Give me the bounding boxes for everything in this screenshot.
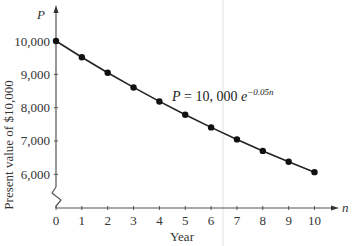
y-tick-label: 7,000 [21, 133, 50, 148]
x-axis-arrow-icon [331, 206, 339, 211]
x-tick-label: 10 [308, 213, 321, 228]
x-ticks: 012345678910 [53, 206, 321, 228]
x-tick-label: 5 [182, 213, 189, 228]
data-markers [53, 38, 318, 176]
data-point [105, 70, 111, 76]
x-axis-label: Year [170, 229, 195, 244]
y-ticks: 6,0007,0008,0009,00010,000 [14, 34, 58, 182]
x-tick-label: 6 [208, 213, 215, 228]
data-point [311, 169, 317, 175]
x-tick-label: 7 [234, 213, 241, 228]
data-point [182, 112, 188, 118]
x-tick-label: 3 [130, 213, 137, 228]
x-tick-label: 9 [285, 213, 292, 228]
y-tick-label: 6,000 [21, 167, 50, 182]
data-point [260, 148, 266, 154]
x-tick-label: 2 [104, 213, 111, 228]
y-axis-symbol: P [36, 7, 45, 22]
data-point [285, 159, 291, 165]
chart: 6,0007,0008,0009,00010,000 012345678910 … [0, 0, 355, 246]
data-point [53, 38, 59, 44]
data-point [130, 84, 136, 90]
y-tick-label: 9,000 [21, 67, 50, 82]
data-point [156, 98, 162, 104]
formula-annotation: P = 10, 000 e−0.05n [171, 87, 274, 104]
data-line [56, 41, 315, 172]
x-axis-symbol: n [342, 200, 349, 215]
x-tick-label: 4 [156, 213, 163, 228]
data-point [208, 124, 214, 130]
y-tick-label: 10,000 [14, 34, 50, 49]
data-point [79, 54, 85, 60]
x-tick-label: 8 [260, 213, 267, 228]
y-axis-label: Present value of $10,000 [1, 80, 16, 209]
data-point [234, 136, 240, 142]
y-tick-label: 8,000 [21, 100, 50, 115]
x-tick-label: 1 [79, 213, 86, 228]
y-axis-arrow-icon [54, 5, 59, 13]
x-tick-label: 0 [53, 213, 60, 228]
